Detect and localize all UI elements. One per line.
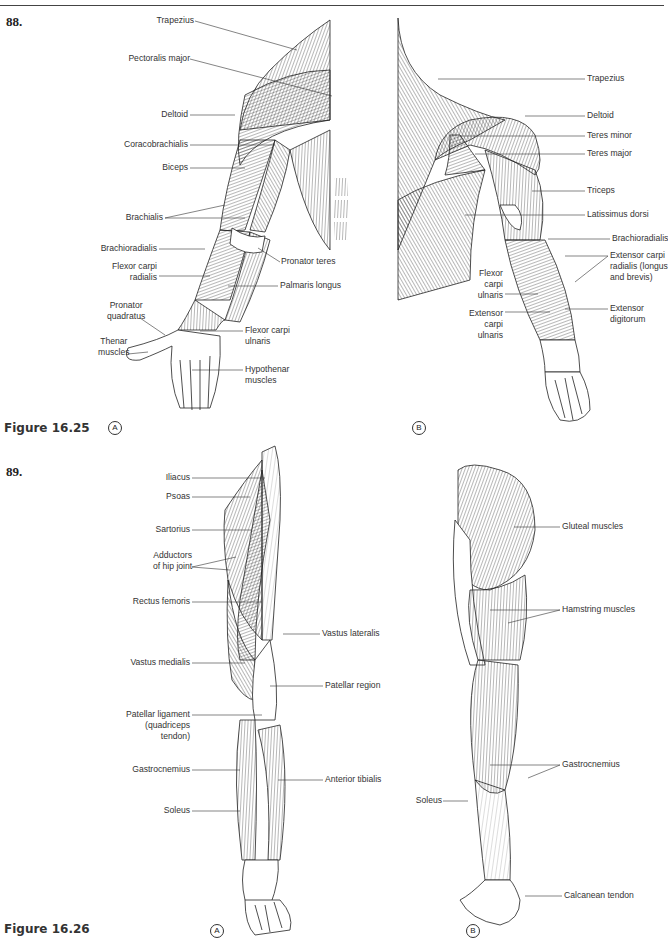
label-calcanean-tendon: Calcanean tendon [564,890,634,901]
label-trapezius: Trapezius [587,73,624,84]
label-gluteal-muscles: Gluteal muscles [562,521,623,532]
label-iliacus: Iliacus [166,472,190,483]
label-teres-minor: Teres minor [587,130,632,141]
label-line: Extensor [610,303,645,314]
label-line: Pronator [107,300,145,311]
label-line: carpi [469,319,503,330]
label-line: Adductors [153,550,192,561]
label-palmaris-longus: Palmaris longus [280,280,341,291]
label-flexor-carpi-ulnaris: Flexor carpi ulnaris [245,325,290,347]
label-brachioradialis: Brachioradialis [612,233,668,244]
label-line: (quadriceps [126,720,190,731]
label-anterior-tibialis: Anterior tibialis [325,774,381,785]
label-rectus-femoris: Rectus femoris [133,596,190,607]
label-pectoralis-major: Pectoralis major [128,53,190,64]
label-teres-major: Teres major [587,148,632,159]
label-flexor-carpi-ulnaris: Flexor carpi ulnaris [478,268,503,301]
label-deltoid: Deltoid [587,110,614,121]
label-line: quadratus [107,311,145,322]
label-deltoid: Deltoid [161,109,188,120]
label-line: muscles [98,347,130,358]
label-line: and brevis) [610,272,668,283]
label-line: tendon) [126,731,190,742]
label-latissimus-dorsi: Latissimus dorsi [587,209,649,220]
label-psoas: Psoas [166,491,190,502]
arm-posterior-illustration [398,18,590,421]
label-line: Extensor carpi [610,250,668,261]
label-line: ulnaris [478,290,503,301]
label-line: Flexor carpi [112,261,157,272]
label-line: digitorum [610,314,645,325]
label-line: ulnaris [245,336,290,347]
label-line: Thenar [98,336,130,347]
label-line: radialis (longus [610,261,668,272]
label-line: Hypothenar [245,364,289,375]
label-hamstring-muscles: Hamstring muscles [562,604,635,615]
label-patellar-region: Patellar region [325,680,380,691]
label-gastrocnemius: Gastrocnemius [132,764,190,775]
label-biceps: Biceps [162,162,188,173]
label-coracobrachialis: Coracobrachialis [124,139,188,150]
label-thenar-muscles: Thenar muscles [98,336,130,358]
label-sartorius: Sartorius [156,524,190,535]
label-pronator-quadratus: Pronator quadratus [107,300,145,322]
label-triceps: Triceps [587,185,615,196]
label-adductors-of-hip-joint: Adductors of hip joint [153,550,192,572]
label-extensor-carpi-ulnaris: Extensor carpi ulnaris [469,308,503,341]
label-line: muscles [245,375,289,386]
label-line: Extensor [469,308,503,319]
leg-posterior-illustration [453,465,535,925]
label-patellar-ligament: Patellar ligament (quadriceps tendon) [126,709,190,742]
label-trapezius: Trapezius [157,15,194,26]
label-line: of hip joint [153,561,192,572]
label-flexor-carpi-radialis: Flexor carpi radialis [112,261,157,283]
label-brachialis: Brachialis [126,212,163,223]
label-gastrocnemius: Gastrocnemius [562,759,620,770]
label-line: Patellar ligament [126,709,190,720]
label-vastus-lateralis: Vastus lateralis [322,628,380,639]
leg-anterior-illustration [224,446,291,935]
label-line: carpi [478,279,503,290]
label-brachioradialis: Brachioradialis [101,243,157,254]
label-line: radialis [112,272,157,283]
label-soleus: Soleus [164,805,190,816]
label-line: Flexor [478,268,503,279]
label-pronator-teres: Pronator teres [281,256,335,267]
label-extensor-digitorum: Extensor digitorum [610,303,645,325]
label-line: Flexor carpi [245,325,290,336]
label-hypothenar-muscles: Hypothenar muscles [245,364,289,386]
label-soleus: Soleus [416,795,442,806]
label-vastus-medialis: Vastus medialis [130,657,190,668]
label-extensor-carpi-radialis: Extensor carpi radialis (longus and brev… [610,250,668,283]
label-line: ulnaris [469,330,503,341]
